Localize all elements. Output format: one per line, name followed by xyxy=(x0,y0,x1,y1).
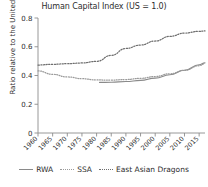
line-dotted-icon xyxy=(99,169,113,171)
y-tick-label: 0.4 xyxy=(21,72,33,80)
series-line-ssa xyxy=(38,64,205,80)
legend-label-rwa: RWA xyxy=(36,165,53,174)
y-tick-label: 0.8 xyxy=(21,15,32,23)
series-line-east-asian-dragons xyxy=(38,31,205,65)
x-tick-label: 1980 xyxy=(81,135,98,152)
line-fine-dotted-icon xyxy=(60,169,74,171)
y-tick-label: 0.6 xyxy=(21,43,33,51)
chart-legend: RWA SSA East Asian Dragons xyxy=(0,165,208,174)
x-tick-label: 1995 xyxy=(125,135,142,152)
x-tick-label: 2005 xyxy=(154,135,171,152)
legend-item-ssa: SSA xyxy=(60,165,92,174)
legend-item-rwa: RWA xyxy=(19,165,53,174)
legend-item-east-asian-dragons: East Asian Dragons xyxy=(99,165,189,174)
x-tick-label: 1960 xyxy=(22,135,39,152)
plot-area: 00.20.40.60.8196019651970197519801985199… xyxy=(0,0,208,187)
chart-figure: Human Capital Index (US = 1.0) Ratio rel… xyxy=(0,0,208,187)
x-tick-label: 1985 xyxy=(95,135,112,152)
x-tick-label: 2015 xyxy=(183,135,200,152)
x-tick-label: 2010 xyxy=(169,135,186,152)
x-tick-label: 1975 xyxy=(66,135,83,152)
x-tick-label: 1990 xyxy=(110,135,127,152)
x-tick-label: 1970 xyxy=(51,135,68,152)
x-tick-label: 2000 xyxy=(139,135,156,152)
legend-label-ssa: SSA xyxy=(77,165,92,174)
line-solid-icon xyxy=(19,169,33,171)
y-tick-label: 0.2 xyxy=(21,101,32,109)
legend-label-east-asian-dragons: East Asian Dragons xyxy=(116,165,189,174)
series-line-rwa xyxy=(100,63,205,83)
x-tick-label: 1965 xyxy=(37,135,54,152)
